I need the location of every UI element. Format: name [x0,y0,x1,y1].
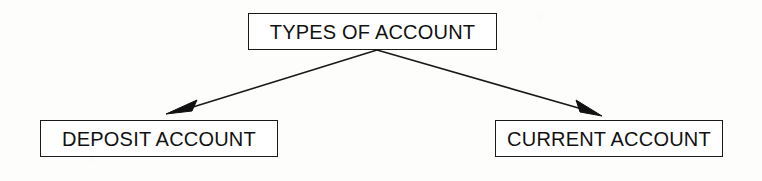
diagram-canvas: TYPES OF ACCOUNT DEPOSIT ACCOUNT CURRENT… [0,0,762,181]
arrowhead-right-icon [576,100,602,116]
node-label-deposit: DEPOSIT ACCOUNT [62,129,256,149]
connector-line-left [180,50,377,111]
arrowhead-left-icon [166,100,197,114]
node-deposit-account: DEPOSIT ACCOUNT [40,120,278,157]
node-label-root: TYPES OF ACCOUNT [270,22,475,42]
node-types-of-account: TYPES OF ACCOUNT [248,13,497,50]
connector-root-to-deposit [166,50,377,114]
connector-root-to-current [377,50,602,116]
connector-line-right [377,50,589,111]
node-label-current: CURRENT ACCOUNT [507,129,711,149]
node-current-account: CURRENT ACCOUNT [495,120,723,157]
